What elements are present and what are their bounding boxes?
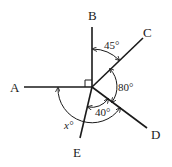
label-b: B [88,8,97,23]
arc-aod [58,88,120,123]
angle-label-boc: 45° [104,39,119,51]
right-angle-mark [85,80,92,87]
label-c: C [143,25,152,40]
label-a: A [10,80,20,95]
label-e: E [73,145,81,160]
arc-cod [110,69,117,102]
angle-label-cod: 80° [118,81,133,93]
angle-label-doe: 40° [95,106,110,118]
ray-oe [80,87,92,138]
angle-label-aod: x° [63,119,74,131]
angle-diagram: B A C D E 45° 80° 40° x° [0,0,172,167]
label-d: D [151,127,160,142]
